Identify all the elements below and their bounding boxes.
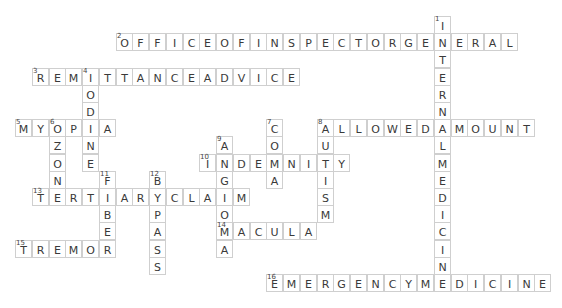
crossword-cell[interactable]: I (317, 171, 334, 189)
crossword-cell[interactable]: D (417, 119, 434, 137)
crossword-cell[interactable]: 16E (266, 274, 283, 292)
crossword-cell[interactable]: 4I (82, 68, 99, 86)
crossword-cell[interactable]: R (384, 33, 401, 51)
crossword-cell[interactable]: E (534, 274, 551, 292)
crossword-cell[interactable]: F (233, 33, 250, 51)
crossword-cell[interactable]: S (317, 188, 334, 206)
crossword-cell[interactable]: W (384, 119, 401, 137)
crossword-cell[interactable]: G (216, 171, 233, 189)
crossword-cell[interactable]: A (216, 240, 233, 258)
crossword-cell[interactable]: E (250, 154, 267, 172)
crossword-cell[interactable]: E (350, 274, 367, 292)
crossword-cell[interactable]: M (283, 274, 300, 292)
crossword-cell[interactable]: D (82, 102, 99, 120)
crossword-cell[interactable]: E (434, 171, 451, 189)
crossword-cell[interactable]: A (132, 68, 149, 86)
crossword-cell[interactable]: 11F (99, 171, 116, 189)
crossword-cell[interactable]: A (116, 188, 133, 206)
crossword-cell[interactable]: S (149, 257, 166, 275)
crossword-cell[interactable]: M (417, 274, 434, 292)
crossword-cell[interactable]: I (99, 188, 116, 206)
crossword-cell[interactable]: P (300, 33, 317, 51)
crossword-cell[interactable]: E (451, 33, 468, 51)
crossword-cell[interactable]: T (350, 33, 367, 51)
crossword-cell[interactable]: N (434, 257, 451, 275)
crossword-cell[interactable]: N (149, 68, 166, 86)
crossword-cell[interactable]: O (367, 33, 384, 51)
crossword-cell[interactable]: T (434, 50, 451, 68)
crossword-cell[interactable]: I (467, 274, 484, 292)
crossword-cell[interactable]: R (317, 274, 334, 292)
crossword-cell[interactable]: C (183, 33, 200, 51)
crossword-cell[interactable]: C (166, 188, 183, 206)
crossword-cell[interactable]: M (266, 154, 283, 172)
crossword-cell[interactable]: E (82, 154, 99, 172)
crossword-cell[interactable]: 10I (199, 154, 216, 172)
crossword-cell[interactable]: E (300, 274, 317, 292)
crossword-cell[interactable]: O (49, 154, 66, 172)
crossword-cell[interactable]: 2O (116, 33, 133, 51)
crossword-cell[interactable]: I (434, 240, 451, 258)
crossword-cell[interactable]: T (518, 119, 535, 137)
crossword-cell[interactable]: P (149, 205, 166, 223)
crossword-cell[interactable]: C (384, 274, 401, 292)
crossword-cell[interactable]: 7C (266, 119, 283, 137)
crossword-cell[interactable]: M (434, 154, 451, 172)
crossword-cell[interactable]: I (216, 188, 233, 206)
crossword-cell[interactable]: D (216, 68, 233, 86)
crossword-cell[interactable]: N (216, 154, 233, 172)
crossword-cell[interactable]: 1I (434, 16, 451, 34)
crossword-cell[interactable]: N (434, 33, 451, 51)
crossword-cell[interactable]: A (266, 171, 283, 189)
crossword-cell[interactable]: C (434, 222, 451, 240)
crossword-cell[interactable]: O (367, 119, 384, 137)
crossword-cell[interactable]: E (400, 119, 417, 137)
crossword-cell[interactable]: G (400, 33, 417, 51)
crossword-cell[interactable]: Y (149, 188, 166, 206)
crossword-cell[interactable]: A (233, 222, 250, 240)
crossword-cell[interactable]: 14M (216, 222, 233, 240)
crossword-cell[interactable]: A (199, 188, 216, 206)
crossword-cell[interactable]: A (484, 33, 501, 51)
crossword-cell[interactable]: E (417, 33, 434, 51)
crossword-cell[interactable]: N (266, 33, 283, 51)
crossword-cell[interactable]: T (82, 188, 99, 206)
crossword-cell[interactable]: C (484, 274, 501, 292)
crossword-cell[interactable]: N (283, 154, 300, 172)
crossword-cell[interactable]: L (283, 222, 300, 240)
crossword-cell[interactable]: L (350, 119, 367, 137)
crossword-cell[interactable]: Z (49, 136, 66, 154)
crossword-cell[interactable]: E (49, 68, 66, 86)
crossword-cell[interactable]: 6O (49, 119, 66, 137)
crossword-cell[interactable]: Y (333, 154, 350, 172)
crossword-cell[interactable]: I (501, 274, 518, 292)
crossword-cell[interactable]: Y (32, 119, 49, 137)
crossword-cell[interactable]: I (434, 205, 451, 223)
crossword-cell[interactable]: T (317, 154, 334, 172)
crossword-cell[interactable]: T (116, 68, 133, 86)
crossword-cell[interactable]: L (183, 188, 200, 206)
crossword-cell[interactable]: E (317, 33, 334, 51)
crossword-cell[interactable]: 9A (216, 136, 233, 154)
crossword-cell[interactable]: O (216, 33, 233, 51)
crossword-cell[interactable]: U (266, 222, 283, 240)
crossword-cell[interactable]: N (518, 274, 535, 292)
crossword-cell[interactable]: O (266, 136, 283, 154)
crossword-cell[interactable]: 5M (15, 119, 32, 137)
crossword-cell[interactable]: M (65, 240, 82, 258)
crossword-cell[interactable]: P (65, 119, 82, 137)
crossword-cell[interactable]: I (82, 119, 99, 137)
crossword-cell[interactable]: M (65, 68, 82, 86)
crossword-cell[interactable]: S (149, 240, 166, 258)
crossword-cell[interactable]: R (132, 188, 149, 206)
crossword-cell[interactable]: B (99, 205, 116, 223)
crossword-cell[interactable]: M (233, 188, 250, 206)
crossword-cell[interactable]: O (467, 119, 484, 137)
crossword-cell[interactable]: A (149, 222, 166, 240)
crossword-cell[interactable]: M (451, 119, 468, 137)
crossword-cell[interactable]: R (65, 188, 82, 206)
crossword-cell[interactable]: R (32, 240, 49, 258)
crossword-cell[interactable]: I (300, 154, 317, 172)
crossword-cell[interactable]: N (49, 171, 66, 189)
crossword-cell[interactable]: E (434, 68, 451, 86)
